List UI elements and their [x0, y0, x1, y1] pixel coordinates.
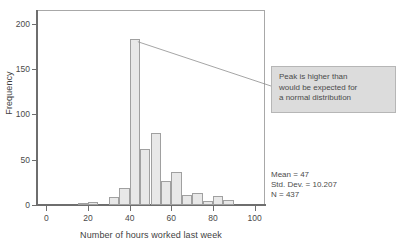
- x-axis-tick-label: 60: [159, 213, 183, 223]
- x-axis-title: Number of hours worked last week: [36, 230, 266, 240]
- y-axis-title: Frequency: [4, 56, 14, 130]
- histogram-bar: [171, 172, 181, 205]
- stat-mean: Mean = 47: [271, 170, 391, 180]
- histogram-figure: 050100150200 020406080100 Frequency Numb…: [0, 0, 401, 247]
- x-axis-tick: [213, 206, 214, 211]
- histogram-bar: [130, 39, 140, 205]
- histogram-bar: [109, 197, 119, 205]
- histogram-bar: [78, 203, 88, 205]
- stat-std-dev: Std. Dev. = 10.207: [271, 180, 391, 190]
- histogram-bar: [223, 200, 233, 205]
- x-axis-tick: [88, 206, 89, 211]
- annotation-callout: Peak is higher than would be expected fo…: [271, 66, 396, 113]
- x-axis-tick: [171, 206, 172, 211]
- y-axis-tick: [32, 160, 36, 161]
- histogram-bar: [88, 202, 98, 205]
- x-axis-tick-label: 100: [243, 213, 267, 223]
- y-axis-tick-label: 200: [4, 19, 30, 29]
- y-axis-tick: [32, 114, 36, 115]
- figure-top-caption: [2, 0, 142, 6]
- y-axis-tick: [32, 69, 36, 70]
- y-axis-tick-label: 0: [4, 200, 30, 210]
- x-axis-tick-label: 40: [118, 213, 142, 223]
- histogram-bar: [192, 193, 202, 205]
- y-axis-tick: [32, 24, 36, 25]
- annotation-line-1: Peak is higher than: [279, 72, 389, 83]
- summary-statistics: Mean = 47 Std. Dev. = 10.207 N = 437: [271, 170, 391, 200]
- histogram-bar: [203, 201, 213, 205]
- y-axis-tick: [32, 205, 36, 206]
- histogram-bar: [161, 181, 171, 205]
- x-axis-tick-label: 80: [201, 213, 225, 223]
- y-axis-tick-label: 50: [4, 155, 30, 165]
- x-axis-tick: [130, 206, 131, 211]
- x-axis-tick-label: 0: [34, 213, 58, 223]
- x-axis-tick-label: 20: [76, 213, 100, 223]
- x-axis-tick: [255, 206, 256, 211]
- x-axis-tick: [46, 206, 47, 211]
- histogram-bar: [140, 149, 150, 205]
- histogram-bar: [213, 196, 223, 205]
- histogram-bar: [151, 133, 161, 205]
- annotation-line-2: would be expected for: [279, 83, 389, 94]
- histogram-bar: [119, 188, 129, 205]
- annotation-line-3: a normal distribution: [279, 93, 389, 104]
- stat-n: N = 437: [271, 190, 391, 200]
- histogram-bars: [36, 10, 265, 205]
- histogram-bar: [182, 195, 192, 205]
